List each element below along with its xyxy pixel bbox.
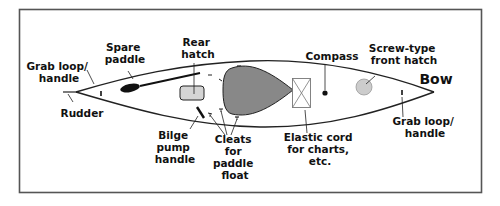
rear-hatch-icon bbox=[180, 86, 204, 100]
compass-icon bbox=[322, 90, 327, 95]
label-spare-paddle: Spare paddle bbox=[105, 41, 145, 65]
elastic-cord-icon bbox=[293, 79, 311, 108]
label-front-hatch: Screw-type front hatch bbox=[369, 42, 439, 66]
label-bow: Bow bbox=[419, 71, 452, 87]
label-rudder: Rudder bbox=[61, 107, 105, 119]
label-compass: Compass bbox=[306, 50, 359, 62]
front-hatch-icon bbox=[356, 79, 372, 95]
label-bilge-pump: Bilge pump handle bbox=[155, 129, 195, 165]
label-rear-hatch: Rear hatch bbox=[181, 36, 214, 60]
kayak-diagram: Grab loop/ handle Spare paddle Rear hatc… bbox=[0, 0, 500, 206]
